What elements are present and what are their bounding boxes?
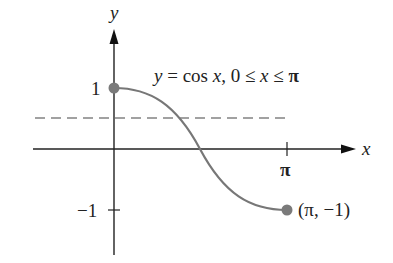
start-point	[109, 83, 120, 94]
end-point	[282, 205, 293, 216]
y-axis-arrow-icon	[110, 29, 119, 44]
cosine-graph: y x 1 −1 π y = cos x, 0 ≤ x ≤ π (π, −1)	[0, 0, 393, 263]
endpoint-label: (π, −1)	[298, 199, 350, 221]
equation-label: y = cos x, 0 ≤ x ≤ π	[152, 65, 299, 86]
y-axis-label: y	[108, 2, 119, 23]
y-tick-label-neg1: −1	[77, 200, 97, 221]
x-axis-label: x	[361, 138, 371, 159]
graph-svg: y x 1 −1 π y = cos x, 0 ≤ x ≤ π (π, −1)	[0, 0, 393, 263]
x-tick-label-pi: π	[280, 159, 291, 180]
x-axis-arrow-icon	[341, 145, 356, 154]
y-tick-label-1: 1	[91, 78, 101, 99]
